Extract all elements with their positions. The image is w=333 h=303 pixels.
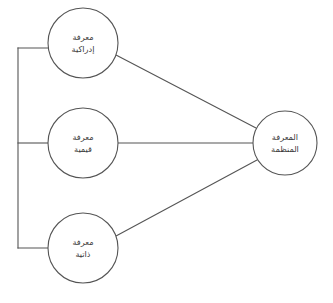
node-circle-group: [48, 8, 317, 283]
node-self-knowledge-circle: [48, 213, 118, 283]
node-cognitive-knowledge-circle: [48, 8, 118, 78]
diagram-canvas: [0, 0, 333, 303]
node-organized-knowledge-circle: [253, 111, 317, 175]
node-value-knowledge-circle: [48, 108, 118, 178]
left-bracket-group: [18, 48, 49, 248]
connector-group: [116, 55, 257, 236]
connector-cognitive-to-organized: [116, 55, 256, 128]
knowledge-relationship-diagram: معرفة إدراكية معرفة قيمية معرفة ذاتية ال…: [0, 0, 333, 303]
connector-self-to-organized: [116, 160, 257, 236]
